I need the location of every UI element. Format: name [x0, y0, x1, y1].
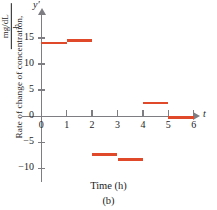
x-tick-label-1: 1 — [57, 119, 77, 130]
x-tick-label-6: 6 — [184, 119, 204, 130]
data-segment-3-4 — [118, 158, 143, 161]
y-tick-5 — [38, 89, 45, 90]
plot-area: t y′ 0123456 151050−5−10 — [0, 0, 217, 178]
y-tick-label-5: 5 — [8, 83, 34, 94]
figure-panel: Rate of change of concentration, mg/dL h… — [0, 0, 217, 210]
data-segment-0-1 — [41, 42, 66, 45]
x-tick-label-5: 5 — [158, 119, 178, 130]
y-tick-label-10: 10 — [8, 57, 34, 68]
y-tick-15 — [38, 37, 45, 38]
x-axis-symbol: t — [203, 108, 206, 119]
data-segment-4-5 — [143, 102, 168, 105]
y-tick-−10 — [38, 168, 45, 169]
x-tick-3 — [117, 110, 118, 117]
y-tick-−5 — [38, 142, 45, 143]
x-tick-label-2: 2 — [82, 119, 102, 130]
y-axis-line — [41, 14, 42, 182]
x-tick-label-0: 0 — [31, 119, 51, 130]
y-tick-label-15: 15 — [8, 31, 34, 42]
x-tick-label-4: 4 — [133, 119, 153, 130]
x-tick-2 — [91, 110, 92, 117]
data-segment-1-2 — [67, 39, 92, 42]
y-tick-10 — [38, 63, 45, 64]
data-segment-2-3 — [92, 153, 117, 156]
figure-caption: (b) — [0, 195, 217, 206]
y-tick-label-−5: −5 — [8, 135, 34, 146]
data-segment-5-6 — [168, 116, 193, 119]
x-tick-label-3: 3 — [108, 119, 128, 130]
x-tick-4 — [142, 110, 143, 117]
y-tick-label-0: 0 — [8, 109, 34, 120]
x-tick-1 — [66, 110, 67, 117]
y-axis-symbol: y′ — [33, 0, 40, 10]
x-axis-title: Time (h) — [0, 180, 217, 191]
y-tick-label-−10: −10 — [8, 161, 34, 172]
